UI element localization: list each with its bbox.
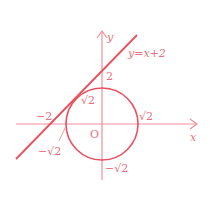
- origin-label: O: [90, 128, 99, 141]
- tangent-line: [16, 35, 137, 159]
- coordinate-diagram: y x O y=x+2 2 −2 √2 √2 −√2 −√2: [0, 0, 218, 207]
- y-intercept-label: 2: [106, 70, 113, 83]
- line-equation-label: y=x+2: [127, 47, 166, 60]
- circle-top-label: √2: [81, 94, 95, 107]
- circle-left-label: −√2: [38, 145, 61, 158]
- x-intercept-label: −2: [36, 110, 52, 123]
- circle-right-label: √2: [139, 110, 153, 123]
- x-axis-label: x: [190, 131, 197, 144]
- y-axis-label: y: [106, 31, 114, 44]
- circle-bottom-label: −√2: [105, 162, 128, 175]
- leader-line: [59, 126, 66, 141]
